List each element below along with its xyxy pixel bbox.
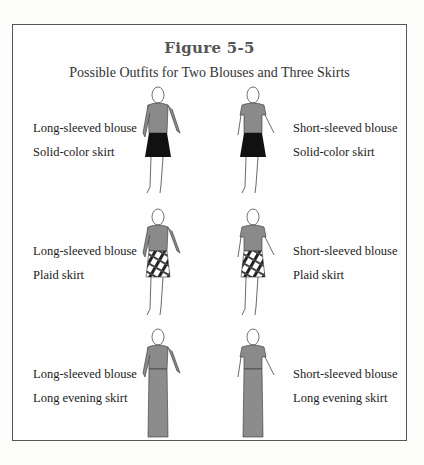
figure-title: Figure 5-5 xyxy=(13,39,406,57)
outfit-3-blouse-label: Long-sleeved blouse xyxy=(33,244,137,259)
outfit-1-blouse-label: Long-sleeved blouse xyxy=(33,121,137,136)
outfit-4-blouse-label: Short-sleeved blouse xyxy=(293,244,398,259)
outfit-4-figure-illustration xyxy=(228,207,278,322)
outfit-5-blouse-label: Long-sleeved blouse xyxy=(33,367,137,382)
outfit-2-skirt-label: Solid-color skirt xyxy=(293,145,375,160)
outfit-2-blouse-label: Short-sleeved blouse xyxy=(293,121,398,136)
outfit-3-skirt-label: Plaid skirt xyxy=(33,268,84,283)
outfit-6-figure-illustration xyxy=(228,327,278,442)
outfit-5-skirt-label: Long evening skirt xyxy=(33,391,127,406)
outfit-4-skirt-label: Plaid skirt xyxy=(293,268,344,283)
outfit-1-figure-illustration xyxy=(133,85,183,200)
figure-frame: Figure 5-5 Possible Outfits for Two Blou… xyxy=(12,24,407,441)
outfit-2-figure-illustration xyxy=(228,85,278,200)
outfit-6-skirt-label: Long evening skirt xyxy=(293,391,387,406)
figure-subtitle: Possible Outfits for Two Blouses and Thr… xyxy=(13,65,406,81)
outfit-3-figure-illustration xyxy=(133,207,183,322)
outfit-6-blouse-label: Short-sleeved blouse xyxy=(293,367,398,382)
outfit-5-figure-illustration xyxy=(133,327,183,442)
outfit-1-skirt-label: Solid-color skirt xyxy=(33,145,115,160)
